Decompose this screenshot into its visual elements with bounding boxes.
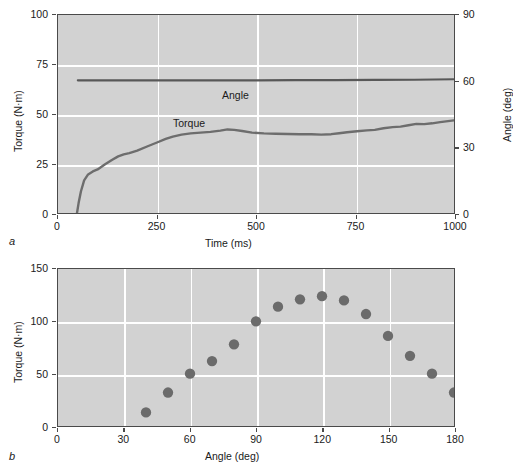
ticklabel-x-b-30: 30 [103,434,143,445]
panel-a-x-axis-title: Time (ms) [205,238,252,249]
ticklabel-x-750: 750 [336,221,376,232]
ticklabel-y-right-0: 0 [463,209,495,220]
ticklabel-x-500: 500 [236,221,276,232]
ticklabel-y-right-90: 90 [463,9,495,20]
scatter-point [229,339,239,349]
scatter-point [317,291,327,301]
scatter-point [163,387,173,397]
tick-x-1000 [455,215,456,219]
tick-x-b-180 [455,428,456,432]
tick-y-right-90 [455,14,459,15]
panel-b-letter: b [9,451,15,462]
ticklabel-y-right-60: 60 [463,76,495,87]
ticklabel-x-b-60: 60 [170,434,210,445]
scatter-point [141,407,151,417]
tick-y-150 [52,268,56,269]
scatter-point [405,351,415,361]
scatter-point [449,387,454,397]
tick-y-left-0 [52,214,56,215]
panel-a-y-left-axis-title: Torque (N·m) [13,90,24,152]
tick-y-100 [52,321,56,322]
scatter-point [295,294,305,304]
scatter-point [339,295,349,305]
panel-b-series-layer [58,269,454,426]
scatter-point [383,331,393,341]
panel-b-x-axis-title: Angle (deg) [205,451,259,462]
scatter-point [185,369,195,379]
tick-x-b-0 [57,428,58,432]
panel-b: 150 100 50 0 0 30 60 90 120 150 180 Torq… [0,255,510,470]
ticklabel-x-b-0: 0 [37,434,77,445]
tick-x-b-30 [123,428,124,432]
ticklabel-x-b-150: 150 [369,434,409,445]
tick-x-250 [157,215,158,219]
panel-a: 100 75 50 25 0 90 60 30 0 0 250 500 750 … [0,0,510,255]
series-tag-angle: Angle [222,90,249,101]
tick-x-b-150 [389,428,390,432]
tick-y-50 [52,374,56,375]
tick-y-left-75 [52,64,56,65]
ticklabel-y-left-25: 25 [16,159,48,170]
ticklabel-y-left-75: 75 [16,59,48,70]
tick-y-left-50 [52,114,56,115]
ticklabel-x-0: 0 [37,221,77,232]
scatter-point [361,309,371,319]
torque-line [77,120,454,213]
ticklabel-y-right-30: 30 [463,142,495,153]
ticklabel-y-left-0: 0 [16,209,48,220]
scatter-point [427,369,437,379]
panel-a-letter: a [9,236,15,247]
scatter-point [273,302,283,312]
tick-y-right-60 [455,81,459,82]
tick-y-left-100 [52,14,56,15]
ticklabel-y-0: 0 [16,422,48,433]
scatter-point [207,356,217,366]
tick-x-b-60 [190,428,191,432]
ticklabel-y-left-100: 100 [16,9,48,20]
panel-a-y-right-axis-title: Angle (deg) [502,88,513,142]
ticklabel-x-b-90: 90 [236,434,276,445]
ticklabel-y-150: 150 [16,263,48,274]
ticklabel-x-b-180: 180 [435,434,475,445]
series-tag-torque: Torque [173,118,205,129]
panel-b-plot-area [57,268,455,427]
angle-line [78,79,454,80]
panel-a-series-layer [58,15,454,213]
tick-x-750 [356,215,357,219]
ticklabel-x-b-120: 120 [302,434,342,445]
tick-x-500 [256,215,257,219]
tick-x-b-120 [322,428,323,432]
ticklabel-x-250: 250 [137,221,177,232]
scatter-point [251,316,261,326]
panel-a-plot-area [57,14,455,214]
tick-y-left-25 [52,164,56,165]
tick-y-right-30 [455,147,459,148]
tick-x-0 [57,215,58,219]
ticklabel-x-1000: 1000 [435,221,475,232]
tick-x-b-90 [256,428,257,432]
tick-y-0 [52,427,56,428]
panel-b-y-axis-title: Torque (N·m) [13,321,24,383]
